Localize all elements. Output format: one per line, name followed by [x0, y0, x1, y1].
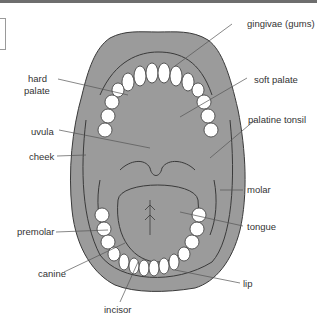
label-molar: molar	[247, 184, 271, 195]
label-incisor: incisor	[104, 304, 131, 315]
label-premolar: premolar	[17, 226, 55, 237]
label-cheek: cheek	[29, 151, 54, 162]
label-uvula: uvula	[31, 126, 54, 137]
label-canine: canine	[38, 268, 66, 279]
label-tongue: tongue	[247, 221, 276, 232]
label-gingivae: gingivae (gums)	[247, 18, 315, 29]
label-hard-palate-line2: palate	[24, 85, 50, 96]
label-palatine-tonsil: palatine tonsil	[248, 114, 306, 125]
label-lip: lip	[243, 278, 253, 289]
label-soft-palate: soft palate	[254, 74, 298, 85]
label-hard-palate-line1: hard	[28, 73, 47, 84]
